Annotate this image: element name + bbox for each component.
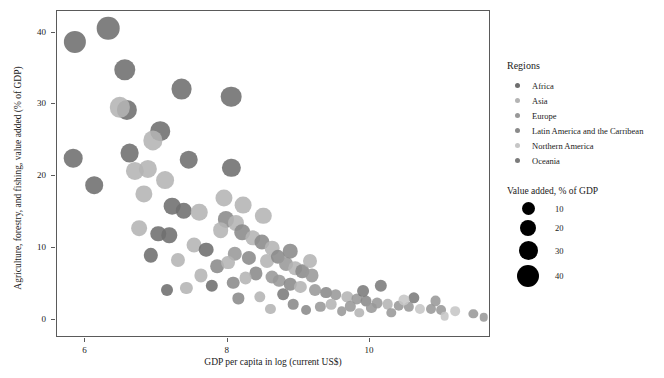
data-point <box>199 242 214 257</box>
size-legend-label: 20 <box>555 223 564 233</box>
region-legend-item[interactable]: Asia <box>515 93 664 108</box>
x-tick-mark <box>227 338 228 342</box>
region-legend-swatch-icon <box>515 143 520 148</box>
data-point <box>277 288 289 300</box>
data-point <box>255 208 271 224</box>
region-legend-swatch-icon <box>515 83 520 88</box>
data-point <box>194 269 207 282</box>
data-point <box>139 160 157 178</box>
size-legend-bubble-icon <box>519 241 538 260</box>
data-point <box>301 305 311 315</box>
data-point <box>221 256 235 270</box>
region-legend-label: Northern America <box>532 141 594 151</box>
data-point <box>469 309 478 318</box>
plot-area <box>56 10 490 337</box>
data-point <box>265 303 275 313</box>
x-tick-label: 10 <box>354 345 384 355</box>
y-tick-mark <box>51 32 55 33</box>
data-point <box>213 222 229 238</box>
size-legend-bubble-icon <box>522 202 535 215</box>
data-point <box>309 284 321 296</box>
region-legend-items: AfricaAsiaEuropeLatin America and the Ca… <box>507 78 664 168</box>
size-legend-bubble-cell <box>511 239 545 262</box>
x-tick-label: 8 <box>212 345 242 355</box>
y-tick-mark <box>51 175 55 176</box>
data-point <box>242 251 256 265</box>
data-points-layer <box>57 11 489 336</box>
data-point <box>409 292 420 303</box>
data-point <box>171 79 192 100</box>
region-legend-label: Oceania <box>532 156 560 166</box>
data-point <box>480 313 489 322</box>
size-legend-label: 30 <box>555 246 564 256</box>
data-point <box>222 159 240 177</box>
region-legend-label: Asia <box>532 96 548 106</box>
data-point <box>64 31 86 53</box>
data-point <box>415 303 425 313</box>
region-legend-item[interactable]: Latin America and the Carribean <box>515 123 664 138</box>
data-point <box>120 144 139 163</box>
data-point <box>451 307 461 317</box>
y-tick-label: 40 <box>20 27 46 37</box>
size-legend-items: 10203040 <box>507 200 664 289</box>
y-tick-mark <box>51 319 55 320</box>
size-legend-label: 10 <box>555 204 564 214</box>
region-legend-label: Europe <box>532 111 557 121</box>
scatter-plot-figure: Agriculture, forestry, and fishing, valu… <box>0 0 664 378</box>
data-point <box>144 248 158 262</box>
data-point <box>303 254 317 268</box>
data-point <box>143 131 162 150</box>
size-legend-item[interactable]: 10 <box>511 200 664 217</box>
data-point <box>156 171 174 189</box>
data-point <box>345 301 355 311</box>
x-tick-label: 6 <box>69 345 99 355</box>
data-point <box>227 276 240 289</box>
x-tick-mark <box>369 338 370 342</box>
size-legend-title: Value added, % of GDP <box>507 186 664 196</box>
region-legend-item[interactable]: Oceania <box>515 153 664 168</box>
size-legend-item[interactable]: 20 <box>511 218 664 238</box>
size-legend-bubble-cell <box>511 263 545 289</box>
y-tick-mark <box>51 247 55 248</box>
data-point <box>97 17 120 40</box>
y-tick-label: 10 <box>20 242 46 252</box>
data-point <box>366 303 376 313</box>
data-point <box>326 299 337 310</box>
region-legend-item[interactable]: Europe <box>515 108 664 123</box>
size-legend-item[interactable]: 40 <box>511 263 664 289</box>
region-legend-item[interactable]: Northern America <box>515 138 664 153</box>
y-tick-label: 0 <box>20 314 46 324</box>
size-legend: Value added, % of GDP 10203040 <box>507 186 664 290</box>
region-legend-item[interactable]: Africa <box>515 78 664 93</box>
data-point <box>288 299 299 310</box>
data-point <box>315 302 325 312</box>
data-point <box>64 149 83 168</box>
data-point <box>235 197 252 214</box>
data-point <box>216 189 233 206</box>
region-legend-label: Latin America and the Carribean <box>532 126 643 136</box>
data-point <box>114 59 135 80</box>
region-legend-swatch-icon <box>515 158 520 163</box>
data-point <box>233 293 244 304</box>
data-point <box>180 282 192 294</box>
data-point <box>191 204 207 220</box>
data-point <box>355 308 364 317</box>
region-legend-swatch-icon <box>515 98 520 103</box>
size-legend-item[interactable]: 30 <box>511 239 664 262</box>
data-point <box>161 284 173 296</box>
region-legend-swatch-icon <box>515 113 520 118</box>
x-tick-mark <box>84 338 85 342</box>
size-legend-bubble-cell <box>511 200 545 217</box>
data-point <box>387 308 396 317</box>
y-tick-label: 20 <box>20 170 46 180</box>
size-legend-bubble-icon <box>520 220 536 236</box>
y-tick-label: 30 <box>20 98 46 108</box>
data-point <box>175 203 192 220</box>
region-legend-title: Regions <box>507 60 664 71</box>
region-legend-label: Africa <box>532 81 554 91</box>
x-axis-title: GDP per capita in log (current US$) <box>56 357 490 367</box>
data-point <box>440 312 449 321</box>
data-point <box>171 253 185 267</box>
data-point <box>239 272 252 285</box>
data-point <box>375 279 387 291</box>
